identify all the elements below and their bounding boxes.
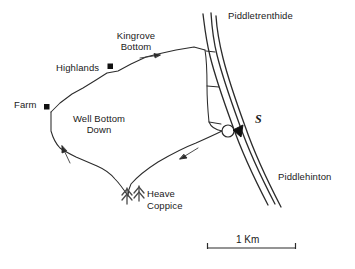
- label-heave-coppice: Heave Coppice: [147, 188, 183, 211]
- label-well-bottom-down-line2: Down: [87, 124, 112, 135]
- road-west-edge: [203, 14, 268, 205]
- boundary-south-edge: [128, 131, 222, 196]
- label-highlands: Highlands: [56, 62, 99, 73]
- conifer-tree-icon-left: [122, 188, 132, 204]
- site-circle-marker: [222, 125, 234, 137]
- farm-square-marker: [44, 104, 50, 110]
- label-kingrove-bottom: Kingrove Bottom: [108, 30, 164, 52]
- label-kingrove-bottom-line2: Bottom: [121, 41, 152, 52]
- label-farm: Farm: [14, 99, 37, 110]
- heave-coppice-trees: [122, 186, 144, 204]
- label-well-bottom-down-line1: Well Bottom: [73, 113, 125, 124]
- label-heave-coppice-line1: Heave: [147, 188, 175, 199]
- scale-bar-label: 1 Km: [236, 234, 259, 245]
- label-piddlehinton: Piddlehinton: [278, 171, 332, 182]
- boundary-outline: [51, 47, 205, 112]
- road-east-edge: [216, 16, 281, 207]
- label-well-bottom-down: Well Bottom Down: [63, 113, 135, 135]
- label-piddletrenthide: Piddletrenthide: [228, 10, 293, 21]
- connector-tick-south: [209, 122, 221, 124]
- conifer-tree-icon-right: [134, 186, 144, 201]
- label-kingrove-bottom-line1: Kingrove: [117, 30, 155, 41]
- map-canvas: [0, 0, 355, 269]
- arrow-southwest-south-edge: [180, 148, 198, 159]
- label-heave-coppice-line2: Coppice: [147, 200, 183, 211]
- label-site-s: S: [255, 114, 262, 125]
- arrow-north-west-edge: [62, 146, 70, 163]
- road-piddle-valley: [203, 13, 281, 207]
- highlands-square-marker: [108, 64, 114, 70]
- connector-tick-north: [206, 51, 215, 52]
- map-figure: Piddletrenthide Kingrove Bottom Highland…: [0, 0, 355, 269]
- connector-tick-mid: [207, 86, 219, 87]
- site-pointer-triangle: [233, 125, 243, 137]
